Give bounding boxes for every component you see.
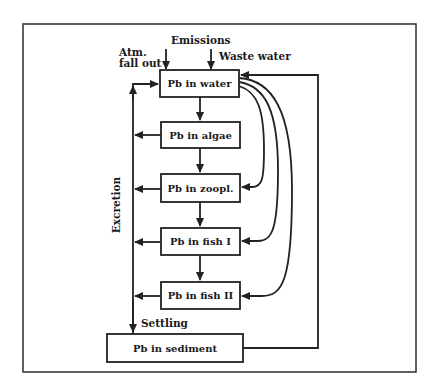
node-algae: Pb in algae [161,122,240,148]
atm-fallout-label-line2: fall out [119,57,162,69]
node-fish2-label: Pb in fish II [168,290,234,301]
settling-label: Settling [141,317,189,329]
node-zoopl-label: Pb in zoopl. [168,183,234,194]
node-fish2: Pb in fish II [161,282,240,309]
node-algae-label: Pb in algae [169,130,232,141]
node-water-label: Pb in water [168,78,233,89]
node-sediment-label: Pb in sediment [133,343,218,354]
waste-water-label: Waste water [218,50,291,62]
water-to-zoopl-curve [239,86,264,187]
node-zoopl: Pb in zoopl. [161,174,240,202]
sediment-to-water-arrow [241,75,318,348]
node-fish1: Pb in fish I [161,228,240,255]
excretion-label: Excretion [110,176,122,233]
emissions-label: Emissions [171,34,231,46]
node-fish1-label: Pb in fish I [170,236,231,247]
excretion-to-water-arrow [133,84,158,85]
lead-cycle-diagram: Emissions Atm. fall out Waste water Pb i… [0,0,437,390]
node-water: Pb in water [160,70,239,97]
node-sediment: Pb in sediment [107,334,243,362]
